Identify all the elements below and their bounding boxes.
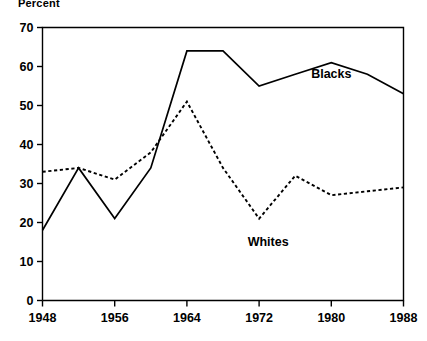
- x-axis-tick-marks: [43, 301, 404, 307]
- x-tick-label: 1964: [173, 311, 201, 325]
- x-tick-label: 1956: [101, 311, 129, 325]
- series-label-whites: Whites: [248, 235, 289, 249]
- y-tick-label: 40: [20, 138, 34, 152]
- y-tick-label: 20: [20, 216, 34, 230]
- line-chart-plot: 010203040506070 194819561964197219801988…: [0, 0, 427, 341]
- y-axis-tick-labels: 010203040506070: [20, 21, 34, 308]
- x-tick-label: 1948: [29, 311, 57, 325]
- y-tick-label: 10: [20, 255, 34, 269]
- x-tick-label: 1972: [245, 311, 273, 325]
- x-tick-label: 1980: [317, 311, 345, 325]
- series-line-whites: [43, 102, 404, 219]
- y-tick-label: 50: [20, 99, 34, 113]
- x-tick-label: 1988: [390, 311, 418, 325]
- y-axis-tick-marks: [37, 28, 43, 301]
- y-tick-label: 70: [20, 21, 34, 35]
- y-tick-label: 60: [20, 60, 34, 74]
- y-tick-label: 0: [27, 294, 34, 308]
- chart-container: Percent 010203040506070 1948195619641972…: [0, 0, 427, 341]
- x-axis-tick-labels: 194819561964197219801988: [29, 311, 418, 325]
- series-label-blacks: Blacks: [311, 67, 351, 81]
- series-annotations: BlacksWhites: [248, 67, 352, 249]
- y-tick-label: 30: [20, 177, 34, 191]
